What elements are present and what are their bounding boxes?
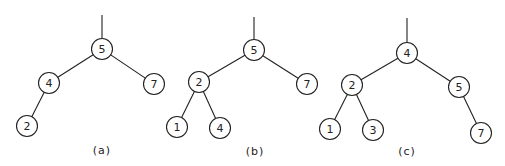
tree-node: 2 <box>342 75 363 96</box>
tree-node: 2 <box>17 116 38 137</box>
node-value: 2 <box>196 76 203 89</box>
edge-c2-c3 <box>356 95 368 121</box>
edge-c2-c1 <box>335 94 348 119</box>
node-value: 1 <box>327 123 334 136</box>
tree-node: 5 <box>92 39 113 60</box>
tree-caption: (b) <box>246 145 265 158</box>
node-value: 7 <box>304 78 311 91</box>
node-value: 3 <box>370 124 377 137</box>
edge-c4-c2 <box>361 58 398 79</box>
edge-b5-b2 <box>208 55 245 76</box>
edge-a5-a4 <box>58 55 93 78</box>
node-value: 7 <box>151 78 158 91</box>
tree-caption: (a) <box>93 144 111 157</box>
tree-node: 4 <box>39 73 60 94</box>
edge-b2-b1 <box>182 91 195 117</box>
node-value: 5 <box>456 81 463 94</box>
tree-a: 5472(a) <box>17 15 165 157</box>
node-value: 2 <box>349 79 356 92</box>
edge-c5-c7 <box>464 96 477 123</box>
tree-node: 4 <box>397 43 418 64</box>
tree-node: 5 <box>449 77 470 98</box>
tree-node: 2 <box>189 72 210 93</box>
tree-node: 7 <box>297 74 318 95</box>
node-value: 4 <box>404 47 411 60</box>
tree-c: 425137(c) <box>320 18 492 158</box>
edge-a4-a2 <box>32 92 44 116</box>
edge-c4-c5 <box>416 59 450 82</box>
node-value: 5 <box>99 43 106 56</box>
tree-node: 3 <box>363 120 384 141</box>
tree-caption: (c) <box>398 145 416 158</box>
node-value: 5 <box>251 44 258 57</box>
tree-node: 1 <box>167 117 188 138</box>
tree-node: 4 <box>210 118 231 139</box>
tree-b: 52714(b) <box>167 17 318 158</box>
node-value: 1 <box>174 121 181 134</box>
node-value: 7 <box>478 127 485 140</box>
node-value: 4 <box>217 122 224 135</box>
tree-node: 5 <box>244 40 265 61</box>
edge-a5-a7 <box>111 55 146 78</box>
tree-node: 7 <box>144 74 165 95</box>
edge-b5-b7 <box>263 56 298 79</box>
node-value: 4 <box>46 77 53 90</box>
edge-b2-b4 <box>203 92 215 119</box>
tree-diagram: 5472(a)52714(b)425137(c) <box>0 0 505 166</box>
tree-node: 7 <box>471 123 492 144</box>
tree-node: 1 <box>320 119 341 140</box>
node-value: 2 <box>24 120 31 133</box>
